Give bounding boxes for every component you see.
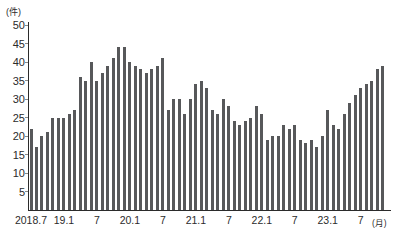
- bar: [134, 66, 137, 210]
- bar: [370, 81, 373, 211]
- bar: [205, 88, 208, 210]
- bar: [178, 99, 181, 210]
- bar: [112, 58, 115, 210]
- bar: [123, 47, 126, 210]
- bar: [161, 58, 164, 210]
- y-axis-tick: [25, 173, 28, 174]
- bar: [271, 136, 274, 210]
- bar: [299, 140, 302, 210]
- y-tick-label: 30: [0, 93, 25, 105]
- bar: [282, 125, 285, 210]
- bar: [222, 99, 225, 210]
- y-tick-label: 35: [0, 75, 25, 87]
- y-tick-label: 50: [0, 19, 25, 31]
- bar: [260, 114, 263, 210]
- y-axis-tick: [25, 80, 28, 81]
- bar: [233, 121, 236, 210]
- bar: [249, 118, 252, 211]
- bar-chart: (件) 5101520253035404550 2018.719.1720.17…: [0, 0, 397, 239]
- bar: [310, 140, 313, 210]
- bar: [128, 62, 131, 210]
- bar: [266, 140, 269, 210]
- bar: [315, 147, 318, 210]
- bar: [95, 81, 98, 211]
- bar: [321, 136, 324, 210]
- bar: [139, 69, 142, 210]
- bar: [255, 106, 258, 210]
- bar: [381, 66, 384, 210]
- y-axis-tick: [25, 99, 28, 100]
- y-tick-label: 45: [0, 38, 25, 50]
- bar: [156, 66, 159, 210]
- bar: [337, 129, 340, 210]
- bar: [167, 110, 170, 210]
- bar: [227, 106, 230, 210]
- bar: [183, 114, 186, 210]
- bar: [326, 110, 329, 210]
- bar: [172, 99, 175, 210]
- y-axis-tick: [25, 62, 28, 63]
- bar: [200, 81, 203, 211]
- bar: [84, 81, 87, 211]
- bar: [73, 110, 76, 210]
- bar: [101, 73, 104, 210]
- x-axis-line: [28, 210, 391, 211]
- y-tick-label: 40: [0, 56, 25, 68]
- y-axis-tick: [25, 43, 28, 44]
- bar: [293, 125, 296, 210]
- bar: [365, 84, 368, 210]
- bar: [332, 125, 335, 210]
- bar: [354, 95, 357, 210]
- bar: [40, 136, 43, 210]
- bar: [145, 73, 148, 210]
- bar: [62, 118, 65, 211]
- y-tick-label: 10: [0, 167, 25, 179]
- x-axis-unit-label: (月): [372, 216, 397, 228]
- bar: [106, 66, 109, 210]
- bar: [359, 88, 362, 210]
- bar: [57, 118, 60, 211]
- bar: [90, 62, 93, 210]
- y-axis-unit-label: (件): [6, 5, 36, 18]
- bar: [79, 77, 82, 210]
- bar: [348, 103, 351, 210]
- y-axis-tick: [25, 191, 28, 192]
- y-axis-tick: [25, 25, 28, 26]
- y-axis-tick: [25, 117, 28, 118]
- y-tick-label: 20: [0, 130, 25, 142]
- bar: [30, 129, 33, 210]
- y-axis-tick: [25, 154, 28, 155]
- bar: [238, 125, 241, 210]
- y-tick-label: 25: [0, 112, 25, 124]
- bar: [244, 121, 247, 210]
- bar: [150, 69, 153, 210]
- bar: [117, 47, 120, 210]
- bar: [304, 143, 307, 210]
- y-axis-tick: [25, 136, 28, 137]
- bar: [35, 147, 38, 210]
- bar: [211, 110, 214, 210]
- y-tick-label: 5: [0, 186, 25, 198]
- bar: [376, 69, 379, 210]
- bar: [68, 114, 71, 210]
- bar: [216, 114, 219, 210]
- bar: [343, 114, 346, 210]
- bar: [189, 99, 192, 210]
- bar: [51, 118, 54, 211]
- bar: [277, 136, 280, 210]
- bar: [194, 84, 197, 210]
- bar: [288, 129, 291, 210]
- y-tick-label: 15: [0, 149, 25, 161]
- bar: [46, 132, 49, 210]
